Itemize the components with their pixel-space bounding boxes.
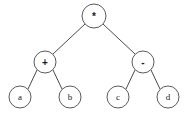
edge-left-operator-to-leaf-a <box>28 70 37 89</box>
edge-left-operator-to-leaf-b <box>53 70 62 89</box>
edge-right-operator-to-leaf-d <box>151 70 160 89</box>
node-leaf-d-label: d <box>166 92 171 102</box>
node-left-operator[interactable]: + <box>34 51 56 73</box>
node-leaf-c[interactable]: c <box>107 86 129 108</box>
node-leaf-d[interactable]: d <box>157 86 179 108</box>
node-right-operator-label: - <box>141 57 144 68</box>
edge-root-to-right-operator <box>103 24 135 54</box>
node-leaf-b-label: b <box>68 92 73 102</box>
node-right-operator[interactable]: - <box>132 51 154 73</box>
node-leaf-c-label: c <box>116 92 120 102</box>
node-root-label: * <box>92 11 96 22</box>
tree-svg-canvas: * + - a b c d <box>0 0 195 117</box>
edge-root-to-left-operator <box>53 24 85 54</box>
node-leaf-b[interactable]: b <box>59 86 81 108</box>
expression-tree-diagram: * + - a b c d <box>0 0 195 117</box>
node-leaf-a[interactable]: a <box>9 86 31 108</box>
node-left-operator-label: + <box>42 57 48 68</box>
node-root[interactable]: * <box>82 4 106 28</box>
node-leaf-a-label: a <box>18 92 22 102</box>
edge-right-operator-to-leaf-c <box>126 70 135 89</box>
